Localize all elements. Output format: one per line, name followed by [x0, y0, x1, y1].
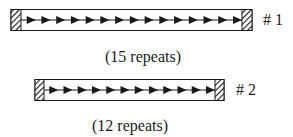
element-label-1: # 1 [263, 12, 283, 28]
left-hatched-end-icon [35, 80, 44, 101]
repeat-diagram: # 1 (15 repeats) # 2 (12 repeats) [0, 0, 293, 137]
repeat-bar-1 [11, 10, 252, 31]
left-hatched-end-icon [11, 10, 21, 31]
element-label-2: # 2 [236, 82, 256, 98]
right-hatched-end-icon [215, 80, 224, 101]
right-hatched-end-icon [242, 10, 252, 31]
repeat-caption-2: (12 repeats) [92, 118, 168, 134]
repeat-caption-1: (15 repeats) [105, 49, 181, 65]
repeat-bar-2 [35, 80, 224, 101]
